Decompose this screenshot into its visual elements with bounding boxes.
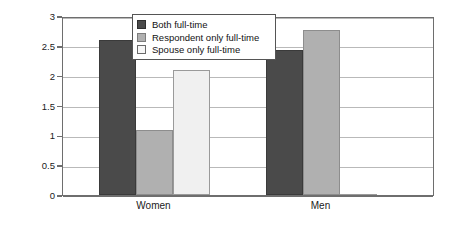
legend: Both full-timeRespondent only full-timeS… bbox=[132, 14, 276, 60]
x-tick-label: Men bbox=[261, 200, 381, 211]
y-tick-label: 1 bbox=[15, 131, 55, 141]
legend-swatch-icon bbox=[137, 45, 146, 54]
y-tick-label: 3 bbox=[15, 12, 55, 22]
y-tick-label: 2.5 bbox=[15, 42, 55, 52]
legend-item: Respondent only full-time bbox=[137, 31, 270, 43]
bar bbox=[266, 50, 303, 195]
y-tick-label: 2 bbox=[15, 72, 55, 82]
y-tick-label: 1.5 bbox=[15, 102, 55, 112]
bar bbox=[340, 194, 377, 195]
bar bbox=[99, 40, 136, 195]
gridline bbox=[63, 196, 433, 198]
legend-swatch-icon bbox=[137, 20, 146, 29]
legend-item: Both full-time bbox=[137, 19, 270, 31]
legend-label: Both full-time bbox=[152, 19, 207, 30]
bar-chart-figure: Perceptions of unfairness 00.511.522.53 … bbox=[0, 0, 449, 227]
bar bbox=[173, 70, 210, 195]
x-tick-label: Women bbox=[94, 200, 214, 211]
legend-label: Spouse only full-time bbox=[152, 44, 240, 55]
y-tick-label: 0 bbox=[15, 191, 55, 201]
legend-label: Respondent only full-time bbox=[152, 32, 259, 43]
y-tick-label: 0.5 bbox=[15, 161, 55, 171]
legend-swatch-icon bbox=[137, 33, 146, 42]
bar bbox=[136, 130, 173, 195]
legend-item: Spouse only full-time bbox=[137, 44, 270, 56]
bar bbox=[303, 30, 340, 195]
